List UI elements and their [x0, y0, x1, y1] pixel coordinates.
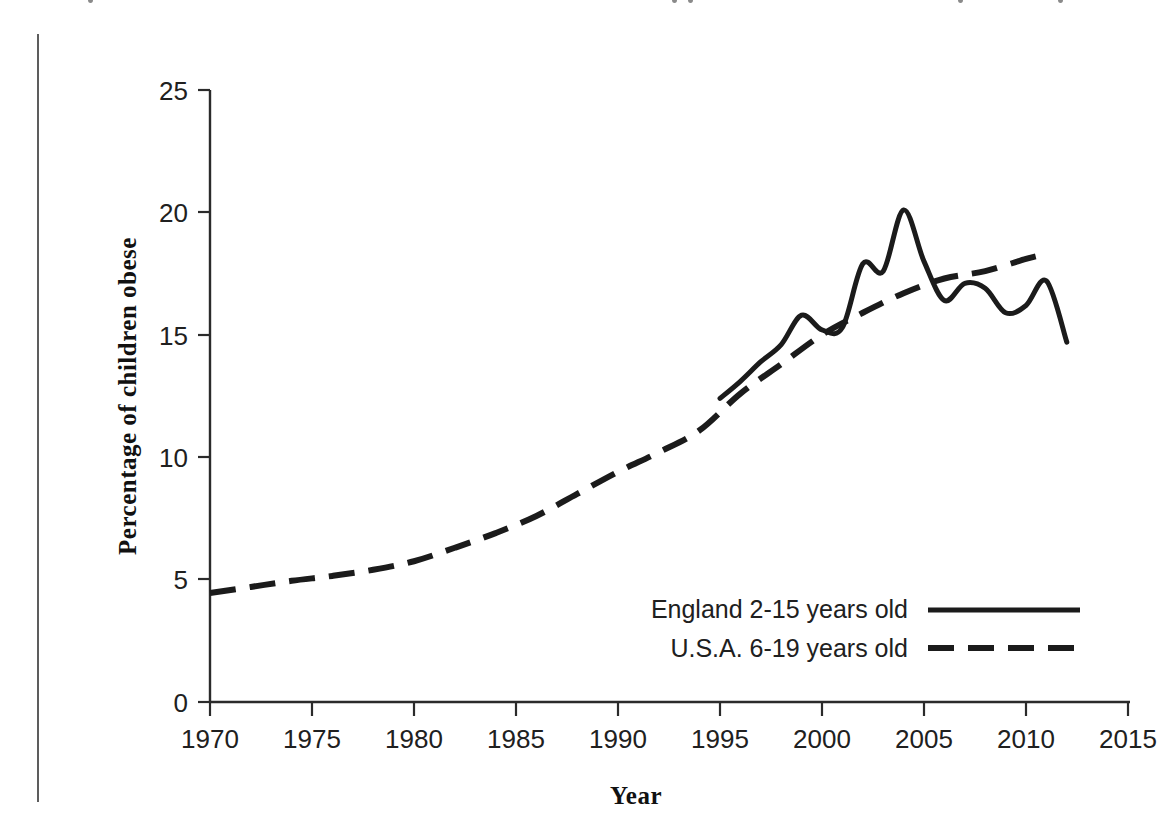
y-axis-title: Percentage of children obese — [114, 237, 141, 555]
y-tick-label-15: 15 — [159, 321, 188, 351]
x-tick-label-2010: 2010 — [997, 724, 1055, 754]
x-axis-ticks — [210, 702, 1128, 716]
legend-label-england: England 2-15 years old — [651, 595, 908, 623]
x-tick-label-2005: 2005 — [895, 724, 953, 754]
scan-margin-rule — [37, 34, 39, 802]
x-axis-tick-labels: 1970 1975 1980 1985 1990 1995 2000 2005 … — [181, 724, 1157, 754]
y-axis-tick-labels: 25 20 15 10 5 0 — [159, 76, 188, 718]
scanned-page-top-text-remnants — [0, 0, 1157, 8]
x-tick-label-2015: 2015 — [1099, 724, 1157, 754]
x-tick-label-1990: 1990 — [589, 724, 647, 754]
chart-legend: England 2-15 years old U.S.A. 6-19 years… — [651, 595, 1080, 662]
data-series-group — [210, 210, 1067, 593]
y-tick-label-25: 25 — [159, 76, 188, 106]
series-line-usa — [210, 254, 1046, 593]
x-tick-label-1980: 1980 — [385, 724, 443, 754]
y-tick-label-0: 0 — [174, 688, 188, 718]
y-axis-ticks — [198, 90, 210, 702]
childhood-obesity-line-chart: 25 20 15 10 5 0 1970 1975 1980 1985 19 — [40, 16, 1157, 837]
x-tick-label-1995: 1995 — [691, 724, 749, 754]
x-tick-label-2000: 2000 — [793, 724, 851, 754]
x-axis-title: Year — [610, 782, 662, 809]
y-tick-label-20: 20 — [159, 198, 188, 228]
x-tick-label-1975: 1975 — [283, 724, 341, 754]
y-tick-label-10: 10 — [159, 443, 188, 473]
y-tick-label-5: 5 — [174, 565, 188, 595]
chart-canvas: 25 20 15 10 5 0 1970 1975 1980 1985 19 — [40, 16, 1157, 837]
x-tick-label-1985: 1985 — [487, 724, 545, 754]
legend-label-usa: U.S.A. 6-19 years old — [670, 634, 908, 662]
x-tick-label-1970: 1970 — [181, 724, 239, 754]
